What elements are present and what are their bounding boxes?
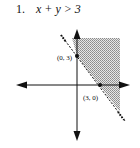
x-axis-arrow-left-icon — [16, 82, 27, 89]
point-label-3-0: (3, 0) — [83, 94, 99, 102]
y-axis-arrow-down-icon — [74, 131, 81, 141]
point-0-3 — [75, 54, 79, 58]
point-3-0 — [98, 83, 102, 87]
y-axis-arrow-up-icon — [74, 29, 81, 39]
boundary-line-end-bottom — [118, 112, 124, 120]
point-label-0-3: (0, 3) — [57, 54, 73, 62]
boundary-line-end-top — [61, 35, 66, 42]
x-axis-arrow-right-icon — [119, 82, 130, 89]
inequality-graph: (0, 3) (3, 0) — [0, 0, 140, 148]
